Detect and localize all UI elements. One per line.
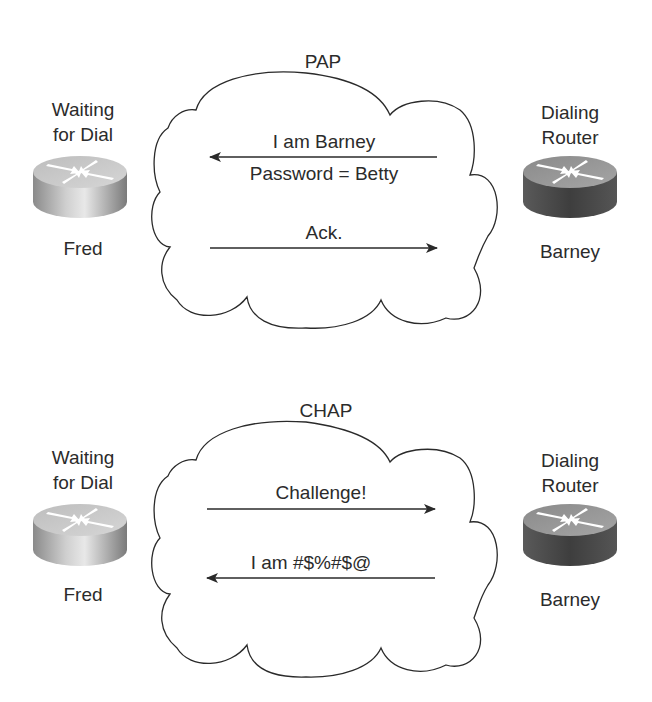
chap-message-challenge: Challenge! — [221, 482, 421, 504]
pap-fred-name: Fred — [23, 237, 143, 261]
pap-barney-router-icon — [523, 156, 617, 218]
chap-barney-name: Barney — [510, 588, 630, 612]
chap-barney-router-icon — [523, 504, 617, 566]
pap-barney-role-line2: Router — [510, 126, 630, 150]
chap-barney-role-line1: Dialing — [510, 449, 630, 473]
chap-barney-role-line2: Router — [510, 474, 630, 498]
pap-barney-name: Barney — [510, 240, 630, 264]
pap-cloud — [152, 72, 498, 328]
chap-cloud — [152, 421, 498, 677]
pap-message-i-am-barney: I am Barney — [224, 131, 424, 153]
chap-fred-role-line1: Waiting — [23, 446, 143, 470]
pap-barney-role-line1: Dialing — [510, 101, 630, 125]
chap-fred-role-line2: for Dial — [23, 471, 143, 495]
pap-title: PAP — [283, 50, 363, 74]
pap-fred-role-line2: for Dial — [23, 123, 143, 147]
pap-message-password: Password = Betty — [214, 163, 434, 185]
chap-fred-name: Fred — [23, 583, 143, 607]
pap-fred-router-icon — [33, 156, 127, 218]
pap-message-ack: Ack. — [264, 222, 384, 244]
pap-fred-role-line1: Waiting — [23, 98, 143, 122]
chap-fred-router-icon — [33, 504, 127, 566]
chap-message-response: I am #$%#$@ — [211, 552, 411, 574]
chap-title: CHAP — [276, 399, 376, 423]
